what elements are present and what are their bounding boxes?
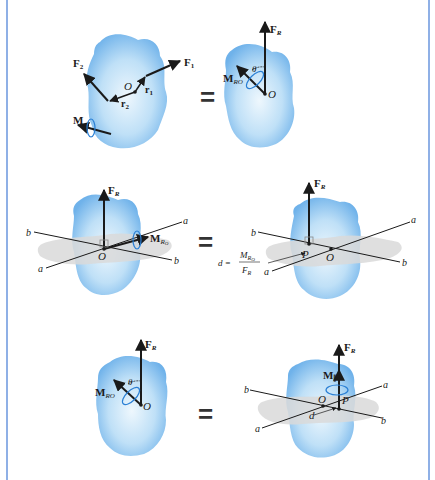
label-axis-b-left: b	[26, 227, 31, 238]
label-axis-b-left: b	[251, 227, 256, 238]
label-d: d	[309, 409, 315, 421]
formula-numerator: MRO	[239, 250, 255, 262]
label-P: P	[341, 394, 349, 406]
force-system-reduction-diagram: F2 F1 O r1 r2 M = FR MRO θ O FR MRO O b …	[0, 0, 435, 480]
label-axis-b-right: b	[174, 255, 179, 266]
rigid-body	[224, 44, 294, 147]
point-O	[263, 92, 267, 96]
label-P: P	[301, 248, 309, 260]
panel-row1-right: FR MRO θ O	[223, 22, 294, 147]
label-axis-a-left: a	[38, 263, 43, 274]
equals-sign-row1: =	[200, 82, 215, 112]
distance-formula: d = MRO FR	[218, 250, 260, 276]
equals-sign-row2: =	[198, 227, 213, 257]
label-theta: θ	[128, 377, 133, 387]
label-O: O	[268, 88, 276, 100]
panel-row2-right: FR P O b b a a d = MRO FR	[218, 177, 416, 299]
label-F1: F1	[184, 56, 195, 70]
label-FR: FR	[314, 177, 326, 191]
label-axis-a-left: a	[255, 423, 260, 434]
panel-row3-left: FR MRO θ O	[95, 338, 167, 456]
label-FR: FR	[145, 338, 157, 352]
label-F2: F2	[73, 57, 84, 71]
panel-row3-right: FR M∥ O P d b b a a	[244, 341, 388, 458]
label-axis-b-right: b	[402, 257, 407, 268]
label-MRO: MRO	[150, 232, 169, 246]
label-axis-a-right: a	[411, 214, 416, 225]
formula-denominator: FR	[241, 265, 252, 276]
label-O: O	[143, 400, 151, 412]
equals-sign-row3: =	[198, 399, 213, 429]
label-axis-a-left: a	[264, 266, 269, 277]
label-axis-b-right: b	[381, 415, 386, 426]
point-O	[133, 90, 137, 94]
formula-d: d =	[218, 258, 231, 268]
label-theta: θ	[252, 64, 257, 74]
point-P	[307, 242, 311, 246]
label-FR: FR	[344, 341, 356, 355]
label-axis-b-left: b	[244, 384, 249, 395]
label-FR: FR	[108, 184, 120, 198]
rigid-body	[96, 356, 167, 456]
label-axis-a-right: a	[183, 215, 188, 226]
label-O: O	[98, 250, 106, 262]
panel-row2-left: FR MRO O b b a a	[26, 184, 188, 295]
panel-row1-left: F2 F1 O r1 r2 M	[73, 34, 195, 148]
label-O: O	[124, 80, 132, 92]
label-O: O	[318, 393, 326, 405]
label-FR: FR	[270, 23, 282, 37]
point-P	[337, 407, 341, 411]
label-M: M	[73, 114, 84, 126]
label-O: O	[326, 251, 334, 263]
label-axis-a-right: a	[383, 379, 388, 390]
